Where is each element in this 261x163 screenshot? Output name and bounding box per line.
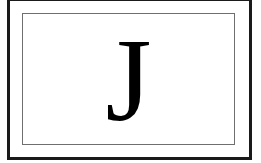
inner-frame: J xyxy=(22,13,235,145)
letter-card-glyph: J xyxy=(23,14,234,144)
